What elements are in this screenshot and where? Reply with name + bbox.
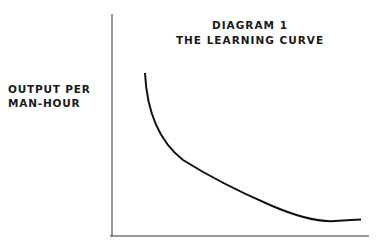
learning-curve	[145, 73, 361, 221]
learning-curve-plot	[0, 0, 378, 250]
